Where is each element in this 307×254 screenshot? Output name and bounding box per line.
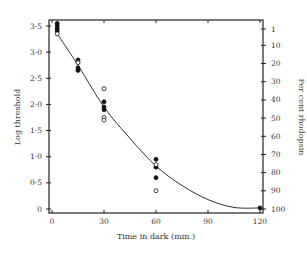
open-circle-marker	[102, 118, 106, 122]
open-circle-marker	[55, 32, 59, 36]
y2-tick-label: 50	[271, 114, 281, 123]
filled-circle-marker	[258, 206, 262, 210]
x-axis-label: Time in dark (min.)	[117, 232, 195, 241]
y2-tick-label: 30	[271, 77, 281, 86]
fitted-curve-line	[57, 34, 260, 208]
y2-tick-label: 100	[271, 205, 286, 214]
y2-tick-label: 1	[271, 25, 276, 34]
fitted-curve	[57, 34, 260, 208]
y2-tick-label: 10	[271, 41, 281, 50]
y-tick-label: 3·0	[30, 48, 42, 57]
y2-tick-label: 60	[271, 132, 281, 141]
y2-tick-label: 70	[271, 150, 281, 159]
open-circle-marker	[154, 189, 158, 193]
y2-tick-label: 90	[271, 186, 281, 195]
y-tick-label: 2·0	[30, 100, 42, 109]
y-tick-label: 1·0	[30, 152, 42, 161]
y-tick-label: 3·5	[30, 22, 42, 31]
y2-axis-label: Per cent rhodopsin	[297, 79, 306, 156]
y2-tick-label: 40	[271, 95, 281, 104]
y-axis-ticks: 00·51·01·52·02·53·03·5	[30, 22, 51, 214]
x-tick-label: 0	[50, 217, 55, 226]
filled-circle-marker	[154, 157, 158, 161]
filled-circle-marker	[102, 108, 106, 112]
y2-axis-ticks: 1102030405060708090100	[261, 25, 286, 214]
y-tick-label: 0·5	[30, 178, 42, 187]
x-tick-label: 30	[99, 217, 109, 226]
y2-tick-label: 20	[271, 59, 281, 68]
x-axis-ticks: 0306090120	[50, 20, 268, 226]
x-tick-label: 120	[253, 217, 268, 226]
filled-circle-marker	[154, 176, 158, 180]
x-tick-label: 90	[203, 217, 213, 226]
y-tick-label: 0	[37, 205, 42, 214]
filled-circle-marker	[102, 100, 106, 104]
filled-circle-marker	[76, 68, 80, 72]
y-axis-label: Log threshold	[13, 89, 22, 145]
y2-tick-label: 80	[271, 168, 281, 177]
y-tick-label: 1·5	[30, 126, 42, 135]
x-tick-label: 60	[151, 217, 161, 226]
open-circle-marker	[76, 61, 80, 65]
open-circle-marker	[102, 87, 106, 91]
y-tick-label: 2·5	[30, 74, 42, 83]
dark-adaptation-chart: 0306090120 00·51·01·52·02·53·03·5 110203…	[0, 0, 307, 254]
open-circle-marker	[154, 163, 158, 167]
plot-border	[49, 20, 263, 213]
plot-frame	[49, 20, 263, 213]
data-points	[55, 21, 262, 210]
